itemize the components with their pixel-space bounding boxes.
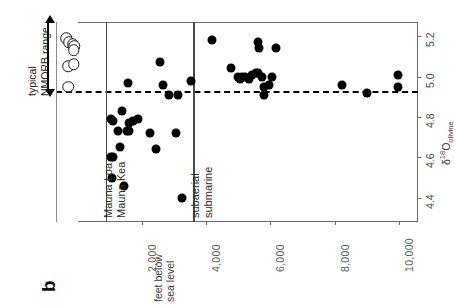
d18O-tick <box>417 198 421 199</box>
data-point <box>174 90 183 99</box>
data-point <box>268 72 277 81</box>
data-point <box>208 36 217 45</box>
data-point <box>134 114 143 123</box>
delta-symbol: δ <box>440 159 452 165</box>
d18O-tick <box>417 77 421 78</box>
depth-tick-label: 6,000 <box>274 244 286 272</box>
d18O-axis-title: δ18Oolivine <box>437 121 455 165</box>
d18O-tick-label: 4.4 <box>424 194 436 209</box>
data-point <box>108 116 117 125</box>
data-point <box>117 106 126 115</box>
data-point <box>337 80 346 89</box>
data-point <box>63 81 75 93</box>
nmorb-label-line1: typical <box>26 27 39 96</box>
isotope-superscript: 18 <box>438 151 447 159</box>
data-point <box>116 143 125 152</box>
data-point <box>254 44 263 53</box>
depth-tick-label: 8,000 <box>339 244 351 272</box>
data-point <box>178 193 187 202</box>
data-point <box>156 58 165 67</box>
d18O-tick-label: 4.6 <box>424 154 436 169</box>
depth-tick <box>399 221 400 225</box>
oxygen-symbol: O <box>440 143 452 151</box>
data-point <box>257 72 266 81</box>
data-point <box>113 127 122 136</box>
data-point <box>187 76 196 85</box>
plot-frame-top <box>78 22 418 23</box>
data-point <box>394 70 403 79</box>
data-point <box>68 45 80 57</box>
volcano-divider-left-label: Mauna Loa <box>102 163 114 218</box>
olivine-subscript: olivine <box>446 121 455 142</box>
scatter-plot: Mauna LoaMauna Keasubaerialsubmarine <box>78 22 418 222</box>
panel-label: b <box>38 280 60 292</box>
depth-tick-label: 4,000 <box>210 244 222 272</box>
depth-axis-title: feet below sea level <box>152 254 176 302</box>
data-point <box>151 145 160 154</box>
data-point <box>394 82 403 91</box>
arrow-head-top <box>45 15 55 23</box>
figure-panel: Mauna LoaMauna Keasubaerialsubmarine typ… <box>0 0 455 308</box>
depth-axis-title-line1: feet below <box>152 254 164 302</box>
plot-frame-right <box>417 22 418 222</box>
data-point <box>271 44 280 53</box>
data-point <box>260 90 269 99</box>
d18O-tick <box>417 36 421 37</box>
plot-frame-bottom <box>78 221 418 222</box>
nmorb-range-label: typical NMORB range <box>26 27 51 96</box>
depth-tick <box>270 221 271 225</box>
data-point <box>108 153 117 162</box>
d18O-tick <box>417 117 421 118</box>
depth-tick <box>142 221 143 225</box>
depth-tick-label: 10,000 <box>403 238 415 272</box>
data-point <box>125 127 134 136</box>
data-point <box>363 88 372 97</box>
depth-tick <box>206 221 207 225</box>
d18O-tick-label: 5.0 <box>424 73 436 88</box>
eruption-divider-right-label: submarine <box>202 167 214 218</box>
data-point <box>68 59 80 71</box>
d18O-tick-label: 5.2 <box>424 33 436 48</box>
depth-axis-title-line2: sea level <box>164 254 176 302</box>
volcano-divider-right-label: Mauna Kea <box>115 162 127 218</box>
data-point <box>145 129 154 138</box>
data-point <box>172 129 181 138</box>
nmorb-label-line2: NMORB range <box>39 27 52 96</box>
eruption-divider-left-label: subaerial <box>189 173 201 218</box>
d18O-tick <box>417 157 421 158</box>
data-point <box>227 64 236 73</box>
data-point <box>124 78 133 87</box>
data-point <box>165 90 174 99</box>
data-point <box>264 80 273 89</box>
data-point <box>158 80 167 89</box>
plot-frame-outer-left <box>56 22 57 222</box>
d18O-tick-label: 4.8 <box>424 113 436 128</box>
depth-tick <box>335 221 336 225</box>
